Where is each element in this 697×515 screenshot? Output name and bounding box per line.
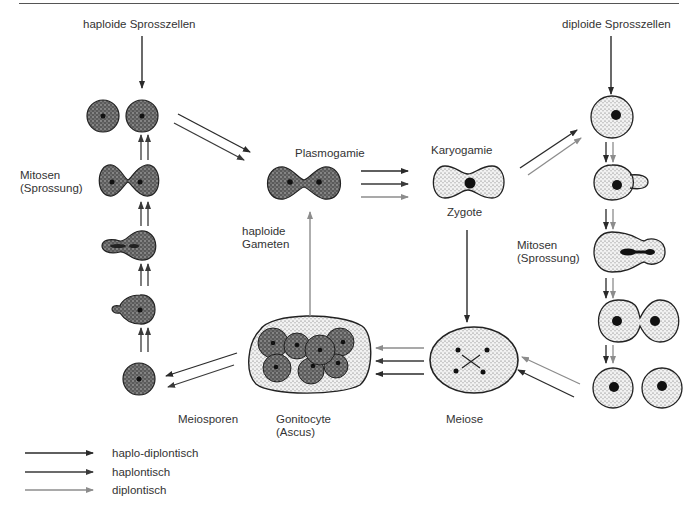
meiosis-cell	[430, 327, 518, 393]
legend-haplo-diplontic: haplo-diplontisch	[112, 446, 198, 460]
label-haploid-gametes-2: Gameten	[242, 237, 289, 251]
label-plasmogamy: Plasmogamie	[295, 146, 365, 160]
label-diploid-budding: diploide Sprosszellen	[562, 17, 671, 31]
label-meiospores: Meiosporen	[178, 412, 238, 426]
label-gonitocyte-2: (Ascus)	[276, 425, 315, 439]
haploid-budding-column	[87, 36, 159, 395]
label-karyogamy: Karyogamie	[431, 143, 492, 157]
label-mitosis-right-2: (Sprossung)	[517, 251, 580, 265]
label-gonitocyte-1: Gonitocyte	[276, 412, 331, 426]
life-cycle-diagram	[0, 0, 697, 515]
diploid-budding-column	[591, 36, 682, 408]
label-mitosis-left-1: Mitosen	[20, 168, 60, 182]
label-haploid-budding: haploide Sprosszellen	[83, 17, 196, 31]
zygote-cell	[433, 166, 504, 198]
label-mitosis-right-1: Mitosen	[517, 238, 557, 252]
legend-diplontic: diplontisch	[112, 483, 166, 497]
label-zygote: Zygote	[447, 205, 482, 219]
label-haploid-gametes-1: haploide	[242, 224, 285, 238]
ascus-cell	[249, 316, 371, 393]
legend-haplontic: haplontisch	[112, 465, 170, 479]
legend-arrows	[25, 453, 93, 490]
label-meiosis: Meiose	[446, 412, 483, 426]
label-mitosis-left-2: (Sprossung)	[20, 181, 83, 195]
plasmogamy-cell	[268, 167, 341, 199]
